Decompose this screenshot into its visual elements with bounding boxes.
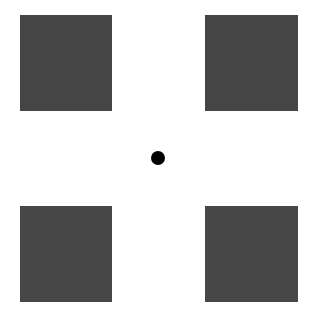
square-bottom-right bbox=[205, 206, 298, 302]
square-top-left bbox=[20, 15, 112, 111]
canvas bbox=[0, 0, 312, 310]
square-bottom-left bbox=[20, 206, 112, 302]
center-dot bbox=[151, 151, 165, 165]
square-top-right bbox=[205, 15, 298, 111]
